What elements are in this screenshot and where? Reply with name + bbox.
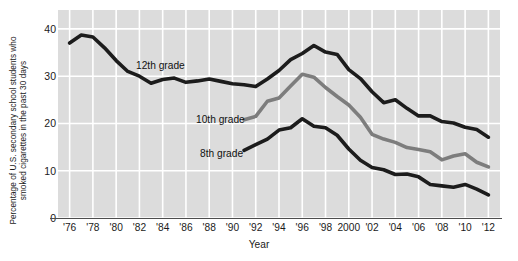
y-tick-label: 10 <box>34 165 56 177</box>
series-label-12th-grade: 12th grade <box>136 60 185 71</box>
plot-svg <box>58 10 500 218</box>
y-tick-label: 40 <box>34 23 56 35</box>
x-tick-label: '76 <box>63 222 76 233</box>
x-axis-title: Year <box>0 239 518 250</box>
series-label-10th-grade: 10th grade <box>196 114 245 125</box>
x-axis-ticks: '76'78'80'82'84'86'88'90'92'94'96'982000… <box>0 222 518 238</box>
x-tick-label: '82 <box>133 222 146 233</box>
x-tick-label: '80 <box>110 222 123 233</box>
x-tick-label: '90 <box>226 222 239 233</box>
x-tick-label: '10 <box>458 222 471 233</box>
x-tick-label: 2000 <box>337 222 360 233</box>
vertical-gridlines <box>70 10 489 218</box>
x-tick-label: '86 <box>179 222 192 233</box>
y-axis-title-text: Percentage of U.S. secondary school stud… <box>9 36 30 224</box>
x-tick-label: '92 <box>249 222 262 233</box>
y-tick-label: 30 <box>34 70 56 82</box>
x-tick-label: '04 <box>389 222 402 233</box>
x-tick-label: '96 <box>296 222 309 233</box>
x-tick-label: '08 <box>435 222 448 233</box>
x-tick-label: '12 <box>482 222 495 233</box>
x-tick-label: '88 <box>203 222 216 233</box>
x-tick-label: '98 <box>319 222 332 233</box>
series-line-10th-grade <box>244 74 488 167</box>
chart-figure: Percentage of U.S. secondary school stud… <box>0 0 518 261</box>
x-tick-label: '78 <box>86 222 99 233</box>
x-tick-label: '84 <box>156 222 169 233</box>
x-tick-label: '94 <box>272 222 285 233</box>
plot-area <box>58 10 500 218</box>
x-tick-label: '02 <box>365 222 378 233</box>
x-tick-label: '06 <box>412 222 425 233</box>
y-tick-label: 20 <box>34 117 56 129</box>
x-axis-line <box>50 218 502 219</box>
series-label-8th-grade: 8th grade <box>200 148 243 159</box>
